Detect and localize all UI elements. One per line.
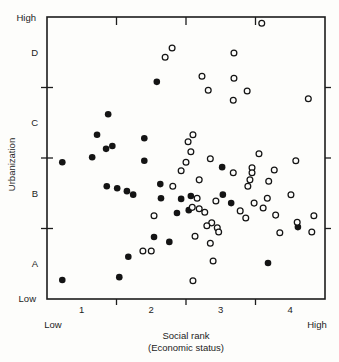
x-band-label: 1: [79, 304, 84, 315]
data-point-filled: [109, 143, 116, 150]
x-axis-title-sub: (Economic status): [111, 342, 261, 353]
data-point-open: [162, 54, 168, 60]
data-point-open: [213, 198, 219, 204]
data-point-filled: [265, 260, 272, 267]
data-point-open: [277, 230, 283, 236]
x-band-label: 2: [149, 304, 154, 315]
x-band-label: 3: [218, 304, 223, 315]
y-axis-title: Urbanization: [6, 115, 17, 215]
data-point-filled: [219, 164, 226, 171]
data-point-open: [231, 75, 237, 81]
data-point-filled: [166, 239, 173, 246]
plot-area: 1234LowHighABCDHighLow: [0, 0, 339, 362]
data-point-open: [199, 73, 205, 79]
data-point-open: [207, 240, 213, 246]
data-point-open: [294, 219, 300, 225]
y-low-label: Low: [19, 293, 37, 304]
data-point-open: [140, 248, 146, 254]
data-point-open: [207, 156, 213, 162]
data-point-filled: [130, 191, 137, 198]
data-point-filled: [228, 200, 235, 207]
data-point-open: [247, 177, 253, 183]
data-point-open: [244, 88, 250, 94]
data-point-filled: [103, 146, 110, 153]
data-point-filled: [89, 154, 96, 161]
plot-frame: [47, 17, 325, 299]
data-point-filled: [178, 196, 185, 203]
data-point-open: [266, 178, 272, 184]
data-point-open: [311, 213, 317, 219]
data-point-filled: [114, 185, 121, 192]
data-point-filled: [188, 193, 195, 200]
y-band-label: D: [31, 47, 38, 58]
y-band-label: B: [32, 188, 38, 199]
data-point-filled: [116, 274, 123, 281]
y-high-label: High: [16, 12, 36, 23]
data-point-open: [271, 167, 277, 173]
data-point-open: [273, 212, 279, 218]
data-point-open: [196, 177, 202, 183]
data-point-filled: [124, 188, 131, 195]
data-point-filled: [157, 181, 164, 188]
data-point-open: [264, 195, 270, 201]
data-point-open: [202, 209, 208, 215]
data-point-open: [185, 139, 191, 145]
data-point-filled: [158, 195, 165, 202]
data-point-open: [251, 200, 257, 206]
y-band-label: C: [31, 117, 38, 128]
data-point-filled: [154, 79, 161, 86]
data-point-open: [230, 170, 236, 176]
data-point-open: [188, 149, 194, 155]
data-point-open: [230, 97, 236, 103]
data-point-open: [256, 151, 262, 157]
data-point-filled: [125, 253, 132, 260]
data-point-open: [194, 195, 200, 201]
data-point-open: [204, 223, 210, 229]
data-point-open: [309, 229, 315, 235]
data-point-open: [190, 278, 196, 284]
data-point-open: [151, 213, 157, 219]
x-high-label: High: [307, 319, 327, 330]
data-point-open: [245, 183, 251, 189]
data-point-filled: [59, 159, 66, 166]
data-point-open: [243, 215, 249, 221]
data-point-open: [210, 258, 216, 264]
data-point-filled: [103, 183, 110, 190]
x-low-label: Low: [44, 319, 62, 330]
data-point-filled: [105, 111, 112, 118]
data-point-open: [189, 204, 195, 210]
data-point-open: [305, 96, 311, 102]
data-point-open: [260, 205, 266, 211]
data-point-open: [178, 168, 184, 174]
data-point-open: [148, 248, 154, 254]
data-point-open: [196, 206, 202, 212]
data-point-open: [192, 233, 198, 239]
data-point-open: [190, 132, 196, 138]
data-point-filled: [94, 131, 101, 138]
data-point-open: [205, 87, 211, 93]
data-point-filled: [174, 210, 181, 217]
y-band-label: A: [32, 258, 39, 269]
data-point-filled: [220, 191, 227, 198]
data-point-open: [183, 159, 189, 165]
data-point-filled: [141, 158, 148, 165]
x-band-label: 4: [288, 304, 293, 315]
data-point-open: [231, 50, 237, 56]
data-point-open: [293, 158, 299, 164]
data-point-open: [169, 45, 175, 51]
data-point-open: [259, 20, 265, 26]
data-point-open: [216, 229, 222, 235]
scatter-figure: 1234LowHighABCDHighLow Social rank (Econ…: [0, 0, 339, 362]
data-point-filled: [59, 277, 66, 284]
data-point-filled: [141, 135, 148, 142]
data-point-open: [288, 192, 294, 198]
data-point-open: [237, 208, 243, 214]
data-point-filled: [151, 234, 158, 241]
data-point-open: [249, 170, 255, 176]
data-point-open: [170, 183, 176, 189]
x-axis-title: Social rank: [111, 330, 261, 341]
